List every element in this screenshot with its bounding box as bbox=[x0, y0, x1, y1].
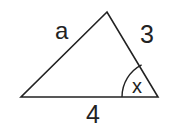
side-label-4: 4 bbox=[86, 100, 100, 128]
angle-label-x: x bbox=[132, 75, 142, 97]
triangle-diagram: a 3 4 x bbox=[0, 0, 170, 130]
side-label-3: 3 bbox=[140, 20, 154, 48]
side-label-a: a bbox=[55, 17, 69, 44]
